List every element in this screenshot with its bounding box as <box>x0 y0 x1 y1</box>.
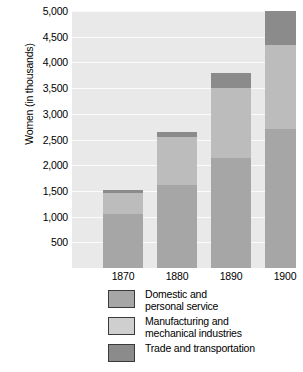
gridline <box>72 88 296 89</box>
legend-label: Domestic and personal service <box>145 289 218 312</box>
y-axis-tick-labels: 5001,0001,5002,0002,5003,0003,5004,0004,… <box>6 0 68 290</box>
bar-segment <box>103 214 143 268</box>
y-tick-label: 500 <box>6 237 68 247</box>
bar-segment <box>265 45 296 129</box>
bar-segment <box>157 137 197 185</box>
bar-segment <box>157 132 197 137</box>
bar-1890 <box>211 73 251 268</box>
bar-1880 <box>157 132 197 268</box>
y-tick-label: 2,000 <box>6 160 68 170</box>
x-tick-label: 1880 <box>150 270 204 282</box>
chart-legend: Domestic and personal serviceManufacturi… <box>108 289 303 366</box>
y-tick-label: 3,500 <box>6 83 68 93</box>
bar-1870 <box>103 190 143 268</box>
legend-swatch <box>108 344 135 362</box>
y-tick-label: 4,500 <box>6 32 68 42</box>
bar-segment <box>265 129 296 268</box>
bar-segment <box>211 88 251 157</box>
stacked-bar-chart: Women (in thousands) 5001,0001,5002,0002… <box>0 0 303 372</box>
bar-1900 <box>265 11 296 268</box>
x-tick-label: 1900 <box>258 270 303 282</box>
bar-segment <box>211 158 251 269</box>
bar-segment <box>103 190 143 193</box>
bar-segment <box>211 73 251 88</box>
gridline <box>72 62 296 63</box>
x-axis-tick-labels: 1870188018901900 <box>72 270 296 284</box>
y-tick-label: 4,000 <box>6 57 68 67</box>
y-tick-label: 2,500 <box>6 135 68 145</box>
legend-item[interactable]: Trade and transportation <box>108 343 303 362</box>
gridline <box>72 37 296 38</box>
bar-segment <box>103 193 143 214</box>
bar-segment <box>265 11 296 45</box>
legend-swatch <box>108 290 135 308</box>
y-tick-label: 1,000 <box>6 212 68 222</box>
y-tick-label: 5,000 <box>6 6 68 16</box>
y-tick-label: 3,000 <box>6 109 68 119</box>
legend-label: Manufacturing and mechanical industries <box>145 316 242 339</box>
bar-segment <box>157 185 197 268</box>
gridline <box>72 11 296 12</box>
gridline <box>72 114 296 115</box>
legend-item[interactable]: Domestic and personal service <box>108 289 303 312</box>
x-tick-label: 1870 <box>96 270 150 282</box>
legend-label: Trade and transportation <box>145 343 255 355</box>
legend-item[interactable]: Manufacturing and mechanical industries <box>108 316 303 339</box>
legend-swatch <box>108 317 135 335</box>
plot-area <box>72 11 296 268</box>
y-tick-label: 1,500 <box>6 186 68 196</box>
x-tick-label: 1890 <box>204 270 258 282</box>
